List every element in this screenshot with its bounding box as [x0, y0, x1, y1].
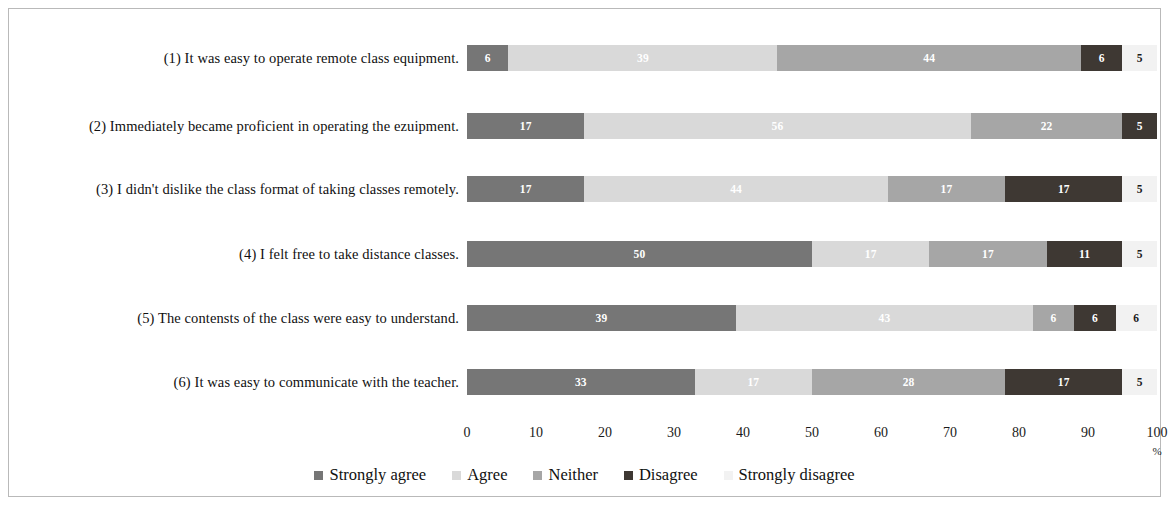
chart-row: (2) Immediately became proficient in ope…	[9, 113, 1160, 139]
bar-segment: 5	[1122, 241, 1157, 267]
x-axis-tick: 70	[943, 425, 957, 441]
stacked-bar: 501717115	[467, 241, 1157, 267]
bar-segment: 5	[1122, 369, 1157, 395]
chart-row: (5) The contensts of the class were easy…	[9, 305, 1160, 331]
stacked-bar: 331728175	[467, 369, 1157, 395]
bar-segment: 17	[888, 176, 1005, 202]
stacked-bar: 174417175	[467, 176, 1157, 202]
category-label: (1) It was easy to operate remote class …	[19, 50, 459, 67]
bar-segment: 17	[467, 113, 584, 139]
legend-label: Disagree	[639, 465, 698, 485]
bar-segment: 6	[1116, 305, 1157, 331]
bar-segment: 6	[1081, 45, 1122, 71]
legend-item: Disagree	[624, 465, 698, 485]
bar-segment: 22	[971, 113, 1123, 139]
stacked-bar: 3943666	[467, 305, 1157, 331]
bar-segment: 28	[812, 369, 1005, 395]
stacked-bar: 6394465	[467, 45, 1157, 71]
legend-swatch-icon	[314, 471, 323, 480]
bar-segment: 17	[929, 241, 1046, 267]
x-axis-tick: 20	[598, 425, 612, 441]
bar-segment: 6	[1033, 305, 1074, 331]
chart-row: (4) I felt free to take distance classes…	[9, 241, 1160, 267]
x-axis-tick: 100	[1147, 425, 1168, 441]
legend-swatch-icon	[452, 471, 461, 480]
bar-segment: 56	[584, 113, 970, 139]
category-label: (4) I felt free to take distance classes…	[19, 246, 459, 263]
bar-segment: 17	[467, 176, 584, 202]
bar-segment: 50	[467, 241, 812, 267]
chart-row: (6) It was easy to communicate with the …	[9, 369, 1160, 395]
chart-row: (1) It was easy to operate remote class …	[9, 45, 1160, 71]
bar-segment: 5	[1122, 113, 1157, 139]
bar-segment: 6	[1074, 305, 1115, 331]
legend-label: Strongly disagree	[739, 465, 855, 485]
bar-segment: 5	[1122, 45, 1157, 71]
x-axis-unit-label: %	[1152, 445, 1161, 457]
chart-legend: Strongly agreeAgreeNeitherDisagreeStrong…	[9, 465, 1160, 485]
legend-swatch-icon	[624, 471, 633, 480]
legend-swatch-icon	[533, 471, 542, 480]
bar-segment: 44	[584, 176, 888, 202]
chart-row: (3) I didn't dislike the class format of…	[9, 176, 1160, 202]
category-label: (6) It was easy to communicate with the …	[19, 374, 459, 391]
x-axis-tick: 30	[667, 425, 681, 441]
x-axis-tick: 0	[464, 425, 471, 441]
bar-segment: 17	[1005, 369, 1122, 395]
x-axis-tick: 40	[736, 425, 750, 441]
x-axis-tick: 60	[874, 425, 888, 441]
x-axis-tick: 10	[529, 425, 543, 441]
legend-label: Strongly agree	[329, 465, 426, 485]
stacked-bar-chart: (1) It was easy to operate remote class …	[9, 9, 1160, 496]
bar-segment: 6	[467, 45, 508, 71]
legend-label: Neither	[548, 465, 597, 485]
legend-swatch-icon	[724, 471, 733, 480]
bar-segment: 33	[467, 369, 695, 395]
legend-item: Strongly disagree	[724, 465, 855, 485]
category-label: (3) I didn't dislike the class format of…	[19, 181, 459, 198]
x-axis: 0102030405060708090100	[467, 425, 1157, 447]
chart-figure-frame: (1) It was easy to operate remote class …	[8, 8, 1161, 497]
legend-label: Agree	[467, 465, 507, 485]
bar-segment: 44	[777, 45, 1081, 71]
x-axis-tick: 90	[1081, 425, 1095, 441]
legend-item: Neither	[533, 465, 597, 485]
x-axis-tick: 80	[1012, 425, 1026, 441]
bar-segment: 39	[467, 305, 736, 331]
legend-item: Agree	[452, 465, 507, 485]
x-axis-tick: 50	[805, 425, 819, 441]
bar-segment: 17	[812, 241, 929, 267]
bar-segment: 39	[508, 45, 777, 71]
stacked-bar: 1756225	[467, 113, 1157, 139]
category-label: (5) The contensts of the class were easy…	[19, 310, 459, 327]
bar-segment: 11	[1047, 241, 1123, 267]
bar-segment: 5	[1122, 176, 1157, 202]
bar-segment: 17	[695, 369, 812, 395]
bar-segment: 17	[1005, 176, 1122, 202]
category-label: (2) Immediately became proficient in ope…	[19, 118, 459, 135]
legend-item: Strongly agree	[314, 465, 426, 485]
bar-segment: 43	[736, 305, 1033, 331]
